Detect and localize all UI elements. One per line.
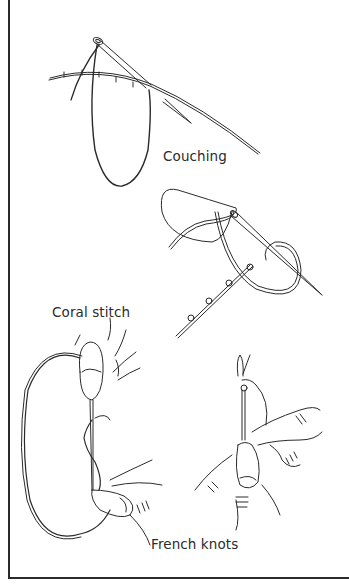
label-french-knots: French knots — [151, 536, 238, 552]
french-knots-right-illustration — [195, 355, 322, 530]
label-couching: Couching — [163, 148, 227, 164]
embroidery-illustration — [0, 0, 349, 584]
label-coral-stitch: Coral stitch — [52, 304, 130, 320]
french-knots-left-illustration — [21, 318, 162, 545]
coral-stitch-illustration — [161, 189, 322, 338]
couching-illustration — [49, 36, 260, 186]
